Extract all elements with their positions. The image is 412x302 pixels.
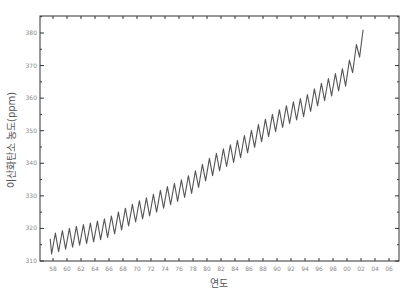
plot-frame (40, 16, 399, 261)
x-axis: 5860626466687072747678808284868890929496… (49, 16, 393, 272)
y-axis: 310320330340350360370380 (26, 17, 399, 264)
x-tick-label: 92 (287, 265, 295, 272)
x-axis-title: 연도 (210, 278, 228, 289)
x-tick-label: 64 (91, 265, 99, 272)
x-tick-label: 58 (49, 265, 57, 272)
y-tick-label: 360 (26, 94, 38, 101)
y-tick-label: 380 (26, 29, 38, 36)
x-tick-label: 98 (329, 265, 337, 272)
co2-series-line (50, 30, 363, 254)
x-tick-label: 76 (175, 265, 183, 272)
x-tick-label: 66 (105, 265, 113, 272)
co2-line-chart: 5860626466687072747678808284868890929496… (0, 0, 412, 302)
x-tick-label: 80 (203, 265, 211, 272)
y-tick-label: 320 (26, 224, 38, 231)
x-tick-label: 82 (217, 265, 225, 272)
y-tick-label: 310 (26, 257, 38, 264)
x-tick-label: 72 (147, 265, 155, 272)
y-tick-label: 330 (26, 192, 38, 199)
x-tick-label: 78 (189, 265, 197, 272)
y-axis-title: 이산화탄소 농도(ppm) (6, 92, 17, 189)
x-tick-label: 88 (259, 265, 267, 272)
x-tick-label: 68 (119, 265, 127, 272)
x-tick-label: 62 (77, 265, 85, 272)
x-tick-label: 00 (343, 265, 351, 272)
x-tick-label: 94 (301, 265, 309, 272)
y-tick-label: 350 (26, 127, 38, 134)
x-tick-label: 02 (357, 265, 365, 272)
x-tick-label: 06 (385, 265, 393, 272)
x-tick-label: 90 (273, 265, 281, 272)
x-tick-label: 70 (133, 265, 141, 272)
x-tick-label: 86 (245, 265, 253, 272)
y-tick-label: 370 (26, 62, 38, 69)
x-tick-label: 96 (315, 265, 323, 272)
x-tick-label: 84 (231, 265, 239, 272)
x-tick-label: 74 (161, 265, 169, 272)
x-tick-label: 04 (371, 265, 379, 272)
x-tick-label: 60 (63, 265, 71, 272)
y-tick-label: 340 (26, 159, 38, 166)
